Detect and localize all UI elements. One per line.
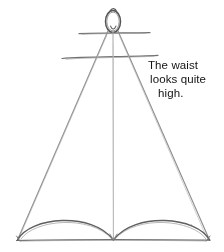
annotation-line-3: high. [148, 86, 224, 100]
annotation-text: The waist looks quite high. [148, 58, 224, 100]
sketch-background [0, 0, 224, 252]
annotation-line-2: looks quite [148, 72, 224, 86]
sketch-canvas: The waist looks quite high. [0, 0, 224, 252]
center-front-line [113, 31, 114, 240]
figure-sketch [0, 0, 224, 252]
annotation-line-1: The waist [148, 58, 224, 72]
